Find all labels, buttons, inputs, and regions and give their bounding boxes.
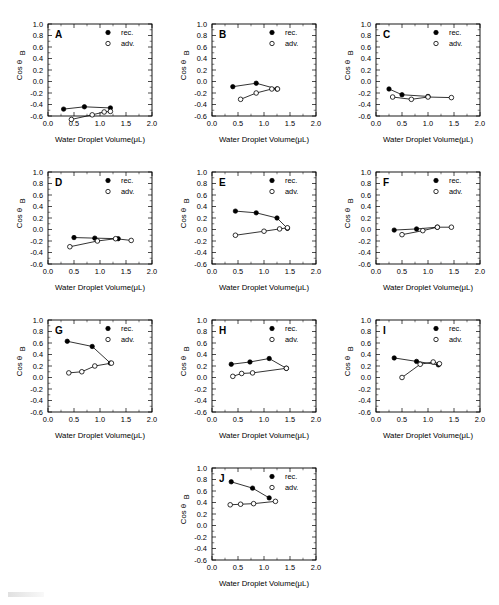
data-point-adv [113,236,118,241]
y-tick-label: -0.6 [30,260,43,269]
legend-label-rec: rec. [449,28,461,37]
data-point-adv [251,501,256,506]
data-point-adv [270,87,275,92]
legend-label-rec: rec. [121,176,133,185]
x-tick-label: 0.5 [233,119,243,128]
data-point-adv [275,87,280,92]
x-tick-label: 2.0 [475,267,485,276]
panel-letter-b: B [219,29,226,40]
y-tick-label: 0.4 [33,350,43,359]
x-tick-label: 1.5 [121,415,131,424]
x-axis-label: Water Droplet Volume(μL) [219,579,309,588]
y-axis-label: Cos θB [179,346,191,376]
series-line-rec [231,482,269,498]
y-axis-label: Cos θB [179,198,191,228]
svg-text:B: B [18,50,27,55]
data-point-adv [390,95,395,100]
x-axis-label: Water Droplet Volume(μL) [219,135,309,144]
legend-label-adv: adv. [449,39,462,48]
chart-panel-j: 1.00.80.60.40.20.0-0.2-0.4-0.60.00.51.01… [168,454,328,600]
x-tick-label: 1.5 [449,415,459,424]
series-line-adv [393,97,452,99]
x-tick-label: 1.0 [423,267,433,276]
y-tick-label: -0.4 [30,396,43,405]
data-point-adv [93,364,98,369]
svg-text:Cos θ: Cos θ [179,60,188,80]
y-tick-label: 0.0 [197,225,207,234]
y-tick-label: 0.0 [361,225,371,234]
y-tick-label: 1.0 [33,20,43,29]
data-point-rec [387,87,391,91]
y-tick-label: -0.4 [30,100,43,109]
svg-text:Cos θ: Cos θ [343,356,352,376]
x-tick-label: 2.0 [147,119,157,128]
data-point-adv [273,499,278,504]
legend-label-adv: adv. [121,39,134,48]
y-tick-label: 1.0 [197,316,207,325]
y-tick-label: 0.8 [197,475,207,484]
legend-label-rec: rec. [121,324,133,333]
y-tick-label: 0.8 [33,179,43,188]
y-tick-label: 0.2 [361,362,371,371]
legend-marker-rec [270,178,274,182]
y-tick-label: 0.4 [361,202,371,211]
panel-letter-a: A [55,29,62,40]
x-tick-label: 1.0 [95,267,105,276]
x-tick-label: 1.5 [285,563,295,572]
data-point-adv [95,239,100,244]
data-point-adv [262,229,267,234]
legend-label-rec: rec. [285,472,297,481]
legend-marker-rec [434,326,438,330]
y-tick-label: 0.0 [197,77,207,86]
series-line-adv [70,239,131,247]
x-tick-label: 0.0 [207,563,217,572]
y-tick-label: -0.6 [194,556,207,565]
y-tick-label: 0.4 [197,54,207,63]
svg-text:Cos θ: Cos θ [179,208,188,228]
y-tick-label: 0.0 [33,225,43,234]
data-point-rec [229,480,233,484]
data-point-adv [80,369,85,374]
data-point-adv [239,371,244,376]
data-point-rec [267,356,271,360]
y-tick-label: 0.8 [33,327,43,336]
legend-marker-adv [270,41,274,45]
svg-text:B: B [182,346,191,351]
y-tick-label: -0.2 [358,237,371,246]
data-point-adv [69,117,74,122]
legend-marker-adv [434,337,438,341]
y-tick-label: 0.0 [197,373,207,382]
data-point-rec [392,356,396,360]
x-tick-label: 0.0 [43,415,53,424]
data-point-adv [250,371,255,376]
y-tick-label: 0.8 [361,31,371,40]
y-tick-label: 0.6 [197,339,207,348]
svg-text:Cos θ: Cos θ [343,208,352,228]
legend-label-rec: rec. [449,324,461,333]
svg-text:B: B [18,346,27,351]
data-point-rec [392,228,396,232]
data-point-adv [108,109,113,114]
series-line-rec [67,341,110,363]
x-tick-label: 0.5 [397,267,407,276]
legend-label-rec: rec. [285,176,297,185]
panel-letter-g: G [55,325,63,336]
data-point-adv [233,233,238,238]
svg-text:B: B [182,494,191,499]
y-axis-label: Cos θB [343,346,355,376]
y-axis-label: Cos θB [15,198,27,228]
y-tick-label: 1.0 [33,168,43,177]
plot-frame [376,24,480,116]
legend-label-rec: rec. [449,176,461,185]
x-tick-label: 1.0 [259,119,269,128]
series-line-adv [69,363,112,373]
data-point-adv [449,225,454,230]
legend-marker-adv [434,189,438,193]
y-tick-label: -0.4 [358,100,371,109]
x-tick-label: 1.0 [259,563,269,572]
x-tick-label: 1.5 [285,415,295,424]
x-tick-label: 2.0 [147,415,157,424]
data-point-adv [109,361,114,366]
x-axis-label: Water Droplet Volume(μL) [219,283,309,292]
y-tick-label: 1.0 [197,168,207,177]
